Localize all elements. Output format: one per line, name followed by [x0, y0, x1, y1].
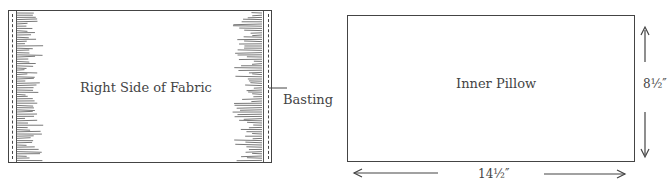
height-dimension: 8½″ [643, 77, 667, 91]
fabric-label: Right Side of Fabric [80, 80, 212, 95]
left-seam-line [16, 11, 17, 162]
right-basting-stitch [268, 14, 269, 159]
width-dimension: 14½″ [478, 167, 509, 181]
left-basting-stitch [12, 14, 13, 159]
pillow-label: Inner Pillow [456, 76, 536, 91]
right-seam-line [263, 11, 264, 162]
basting-label: Basting [283, 92, 333, 107]
